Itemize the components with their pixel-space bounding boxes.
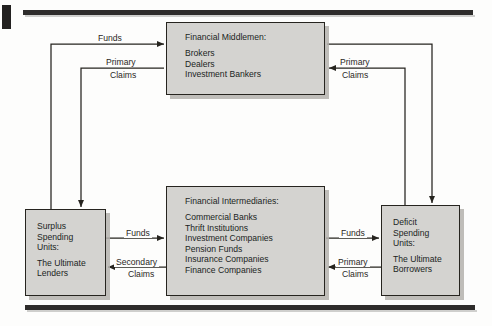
node-surplus-spending-units[interactable]: Surplus Spending Units: The Ultimate Len…: [25, 209, 106, 296]
edge-surplus-to-middlemen-funds: [51, 44, 164, 209]
node-title-line: Spending: [393, 228, 459, 239]
node-deficit-spending-units[interactable]: Deficit Spending Units: The Ultimate Bor…: [381, 205, 460, 296]
edge-middlemen-to-surplus-primary-claims: [81, 68, 164, 207]
node-item: Commercial Banks: [185, 212, 324, 223]
node-sub-line: The Ultimate: [37, 258, 105, 269]
edge-label-claims-mid-right: Claims: [340, 269, 370, 279]
node-sub-line: Lenders: [37, 268, 105, 279]
edge-label-funds-top-left: Funds: [96, 33, 124, 43]
node-title: Financial Intermediaries:: [185, 196, 324, 207]
edge-label-funds-mid-right: Funds: [339, 228, 367, 238]
edge-label-claims-top-left: Claims: [108, 70, 138, 80]
node-item: Investment Bankers: [185, 69, 324, 80]
node-sub-line: The Ultimate: [393, 254, 459, 265]
node-title-line: Units:: [393, 238, 459, 249]
node-item: Finance Companies: [185, 265, 324, 276]
node-item: Thrift Institutions: [185, 223, 324, 234]
edge-label-primary-top-left: Primary: [104, 57, 138, 67]
node-title: Financial Middlemen:: [185, 32, 324, 43]
node-title-line: Deficit: [393, 217, 459, 228]
node-financial-middlemen[interactable]: Financial Middlemen: Brokers Dealers Inv…: [166, 22, 325, 95]
edge-label-funds-mid-left: Funds: [124, 228, 152, 238]
node-title-line: Spending: [37, 232, 105, 243]
node-item: Insurance Companies: [185, 254, 324, 265]
node-item: Dealers: [185, 59, 324, 70]
edge-label-claims-top-right: Claims: [340, 70, 370, 80]
node-title-line: Units:: [37, 242, 105, 253]
edge-label-claims-mid-left: Claims: [126, 269, 156, 279]
edge-label-primary-top-right: Primary: [338, 57, 372, 67]
node-item: Investment Companies: [185, 233, 324, 244]
node-item: Pension Funds: [185, 244, 324, 255]
edge-label-primary-mid-right: Primary: [336, 257, 370, 267]
edge-label-secondary-mid-left: Secondary: [114, 257, 159, 267]
node-title-line: Surplus: [37, 221, 105, 232]
node-item: Brokers: [185, 48, 324, 59]
node-financial-intermediaries[interactable]: Financial Intermediaries: Commercial Ban…: [166, 186, 325, 296]
edge-deficit-to-middlemen-primary-claims: [329, 68, 405, 205]
diagram-canvas: Financial Middlemen: Brokers Dealers Inv…: [0, 0, 492, 326]
node-sub-line: Borrowers: [393, 264, 459, 275]
